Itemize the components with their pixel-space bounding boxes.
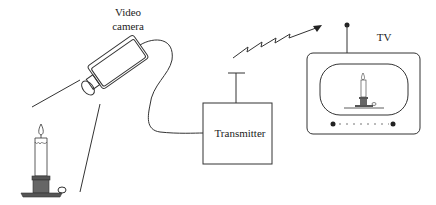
wireless-signal xyxy=(233,25,322,58)
candle-flame-icon xyxy=(39,124,44,135)
camera-label-line1: Video xyxy=(115,6,142,18)
candle-holder-handle xyxy=(58,187,66,193)
transmitter: Transmitter xyxy=(203,73,272,164)
video-camera-label: Video camera xyxy=(112,6,144,32)
tv: TV xyxy=(307,23,420,135)
tv-knob-right xyxy=(391,122,396,127)
view-line-lower xyxy=(80,104,100,192)
video-camera xyxy=(79,34,149,97)
tv-knob-left xyxy=(331,122,336,127)
view-line-upper xyxy=(32,80,80,107)
signal-zigzag xyxy=(233,28,316,58)
tv-screen-candle xyxy=(344,73,384,108)
camera-cable xyxy=(140,40,203,133)
candle-body xyxy=(35,138,47,176)
candle-holder-stem xyxy=(33,180,49,193)
camera-body-inner xyxy=(91,39,146,87)
diagram-canvas: Video camera Transm xyxy=(0,0,436,205)
camera-label-line2: camera xyxy=(112,20,144,32)
camera-lens-front xyxy=(79,79,97,98)
camera-body xyxy=(87,34,149,89)
tv-controls xyxy=(331,122,396,127)
candle-holder-base xyxy=(21,193,62,197)
tv-label: TV xyxy=(377,31,392,43)
candle-holder-rim xyxy=(32,176,50,180)
candle xyxy=(21,124,66,197)
transmitter-label: Transmitter xyxy=(215,127,266,139)
